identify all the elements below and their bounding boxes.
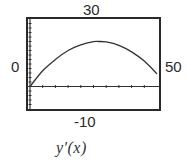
axes <box>28 19 159 109</box>
function-caption: y'(x) <box>56 139 87 157</box>
graph-window <box>0 0 187 167</box>
axis-ticks <box>29 24 145 105</box>
window-frame <box>27 18 160 110</box>
curve-y-prime <box>30 41 157 86</box>
